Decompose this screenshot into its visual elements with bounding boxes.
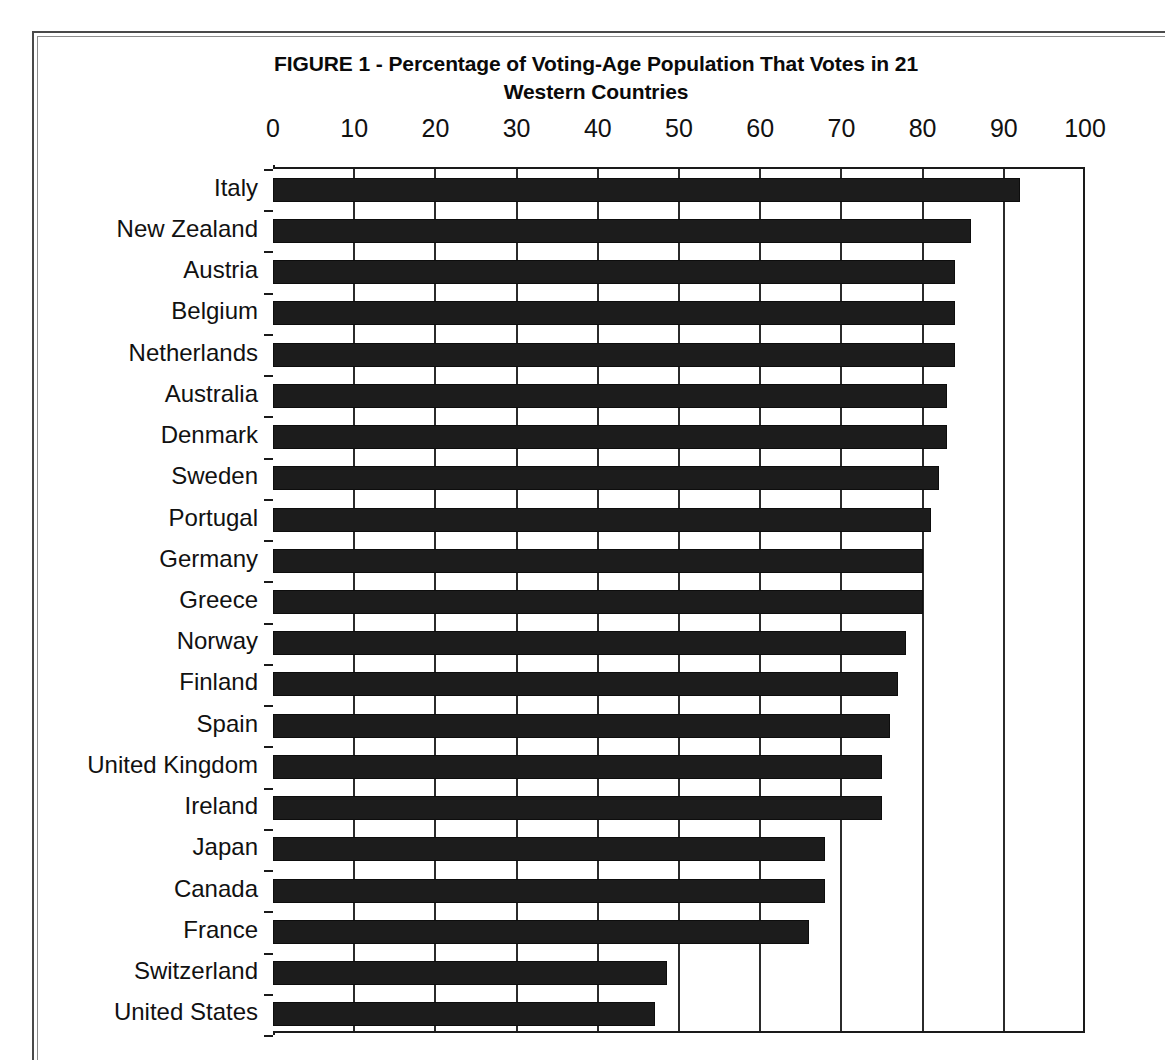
bar — [273, 755, 882, 779]
x-tick-label-90: 90 — [969, 113, 1039, 143]
x-tick-label-10: 10 — [319, 113, 389, 143]
y-axis-label-spain: Spain — [0, 710, 258, 738]
bar — [273, 837, 825, 861]
bar — [273, 466, 939, 490]
y-tick-mark — [264, 251, 273, 253]
bar — [273, 631, 906, 655]
x-tick-label-70: 70 — [806, 113, 876, 143]
bar — [273, 672, 898, 696]
bar — [273, 961, 667, 985]
chart-title: FIGURE 1 - Percentage of Voting-Age Popu… — [196, 50, 996, 106]
bar — [273, 1002, 655, 1026]
y-axis-label-australia: Australia — [0, 380, 258, 408]
gridline-90 — [1003, 169, 1005, 1031]
bar — [273, 384, 947, 408]
bar — [273, 879, 825, 903]
y-tick-mark — [264, 788, 273, 790]
y-axis-label-denmark: Denmark — [0, 421, 258, 449]
y-axis-label-canada: Canada — [0, 875, 258, 903]
y-tick-mark — [264, 994, 273, 996]
bar — [273, 301, 955, 325]
x-tick-label-30: 30 — [482, 113, 552, 143]
x-tick-label-40: 40 — [563, 113, 633, 143]
bar — [273, 219, 971, 243]
bar — [273, 343, 955, 367]
bar — [273, 920, 809, 944]
y-axis-label-ireland: Ireland — [0, 792, 258, 820]
y-axis-label-switzerland: Switzerland — [0, 957, 258, 985]
y-tick-mark — [264, 334, 273, 336]
y-axis-label-greece: Greece — [0, 586, 258, 614]
y-tick-mark — [264, 829, 273, 831]
bar — [273, 796, 882, 820]
bar — [273, 425, 947, 449]
x-axis-tick-labels: 0102030405060708090100 — [0, 113, 1168, 145]
y-axis-label-austria: Austria — [0, 256, 258, 284]
y-tick-mark — [264, 416, 273, 418]
y-axis-label-italy: Italy — [0, 174, 258, 202]
y-tick-mark — [264, 375, 273, 377]
y-tick-mark — [264, 540, 273, 542]
y-axis-label-netherlands: Netherlands — [0, 339, 258, 367]
y-tick-mark — [264, 1035, 273, 1037]
y-tick-mark — [264, 169, 273, 171]
plot-area — [273, 167, 1085, 1033]
x-tick-label-60: 60 — [725, 113, 795, 143]
y-axis-label-finland: Finland — [0, 668, 258, 696]
y-tick-mark — [264, 623, 273, 625]
y-tick-mark — [264, 499, 273, 501]
y-tick-mark — [264, 870, 273, 872]
bar — [273, 590, 923, 614]
y-tick-mark — [264, 210, 273, 212]
bar — [273, 508, 931, 532]
bar — [273, 549, 923, 573]
y-axis-label-belgium: Belgium — [0, 297, 258, 325]
y-tick-mark — [264, 705, 273, 707]
y-axis-label-germany: Germany — [0, 545, 258, 573]
y-axis-label-sweden: Sweden — [0, 462, 258, 490]
y-axis-label-norway: Norway — [0, 627, 258, 655]
y-axis-category-labels: ItalyNew ZealandAustriaBelgiumNetherland… — [0, 167, 262, 1033]
x-tick-label-50: 50 — [644, 113, 714, 143]
chart-title-line-2: Western Countries — [196, 78, 996, 106]
y-tick-mark — [264, 911, 273, 913]
y-tick-mark — [264, 581, 273, 583]
y-axis-label-new-zealand: New Zealand — [0, 215, 258, 243]
y-tick-mark — [264, 458, 273, 460]
chart-title-line-1: FIGURE 1 - Percentage of Voting-Age Popu… — [196, 50, 996, 78]
x-tick-label-20: 20 — [400, 113, 470, 143]
y-axis-label-united-states: United States — [0, 998, 258, 1026]
bar — [273, 260, 955, 284]
y-axis-label-united-kingdom: United Kingdom — [0, 751, 258, 779]
y-axis-label-portugal: Portugal — [0, 504, 258, 532]
x-tick-label-0: 0 — [238, 113, 308, 143]
x-tick-label-80: 80 — [888, 113, 958, 143]
bar — [273, 714, 890, 738]
y-tick-mark — [264, 953, 273, 955]
y-tick-mark — [264, 293, 273, 295]
y-axis-label-japan: Japan — [0, 833, 258, 861]
scanned-page: FIGURE 1 - Percentage of Voting-Age Popu… — [0, 0, 1168, 1063]
y-tick-mark — [264, 664, 273, 666]
x-tick-label-100: 100 — [1050, 113, 1120, 143]
bar — [273, 178, 1020, 202]
y-tick-mark — [264, 746, 273, 748]
y-axis-label-france: France — [0, 916, 258, 944]
